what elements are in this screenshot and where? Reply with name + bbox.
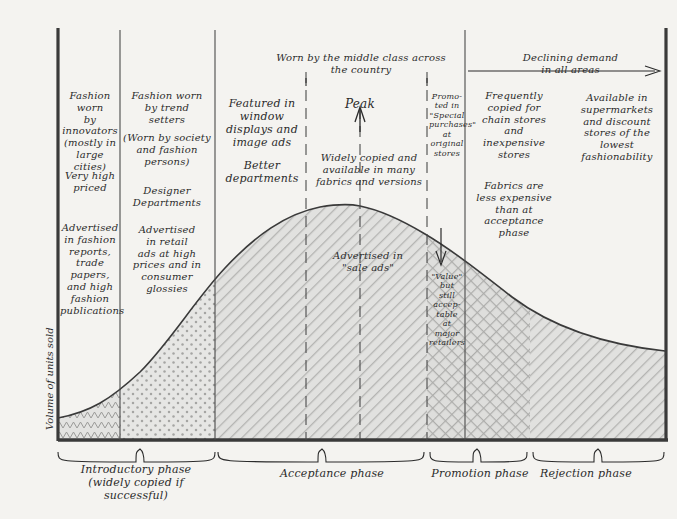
annotation-middle-class: Worn by the middle class across the coun… <box>276 52 446 76</box>
col-window-displays-block-0: Featured in window displays and image ad… <box>218 98 306 150</box>
peak-label: Peak <box>328 97 392 111</box>
col-innovators-block-2: Advertised in fashion reports, trade pap… <box>60 222 120 316</box>
phase-label-introductory: Introductory phase (widely copied if suc… <box>56 464 216 503</box>
y-axis-label: Volume of units sold <box>44 327 55 430</box>
col-widely-copied-block-2: Advertised in "sale ads" <box>312 250 424 274</box>
col-supermarkets-block-0: Available in supermarkets and discount s… <box>570 92 664 163</box>
col-chain-stores-block-1: Fabrics are less expensive than at accep… <box>468 180 560 239</box>
col-innovators-block-1: Very high priced <box>62 170 118 194</box>
annotation-declining-demand: Declining demand in all areas <box>483 52 658 76</box>
fashion-cycle-diagram: Volume of units sold Worn by the middle … <box>0 0 677 519</box>
col-special-purchases-block-0: Promo- ted in "Special purchases" at ori… <box>429 92 465 158</box>
col-trend-setters-block-1: (Worn by society and fashion persons) <box>120 132 214 167</box>
col-trend-setters-block-3: Advertised in retail ads at high prices … <box>120 224 214 295</box>
col-widely-copied-block-1: Widely copied and available in many fabr… <box>310 152 428 187</box>
col-special-purchases-block-1: "Value" but still accep- table at major … <box>429 272 465 348</box>
col-innovators-block-0: Fashion worn by innovators (mostly in la… <box>62 90 118 173</box>
phase-label-promotion: Promotion phase <box>428 468 532 481</box>
col-trend-setters-block-0: Fashion worn by trend setters <box>122 90 212 125</box>
col-trend-setters-block-2: Designer Departments <box>122 185 212 209</box>
col-chain-stores-block-0: Frequently copied for chain stores and i… <box>468 90 560 161</box>
phase-label-rejection: Rejection phase <box>534 468 638 481</box>
phase-label-acceptance: Acceptance phase <box>272 468 392 481</box>
col-window-displays-block-1: Better departments <box>218 160 306 186</box>
